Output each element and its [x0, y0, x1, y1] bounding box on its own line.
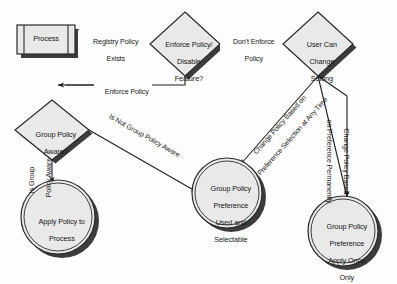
- apply-policy-line1: Apply Policy to: [38, 217, 84, 226]
- enforce-policy-line1: Enforce Policy: [105, 88, 149, 96]
- registry-policy-line2: Exists: [107, 55, 125, 63]
- enforce-decision-line1: Enforce Policy/: [165, 40, 212, 49]
- process-label: Process: [28, 35, 64, 44]
- apply-policy-label: Apply Policy to Process: [20, 209, 96, 252]
- enforce-decision-line3: Feature?: [175, 74, 203, 83]
- enforce-decision-line2: Disable: [177, 57, 201, 66]
- user-can-change-line1: User Can: [307, 40, 337, 49]
- enforce-decision-label: Enforce Policy/ Disable Feature?: [152, 32, 218, 92]
- gp-pref-once-line1: Group Policy: [327, 222, 368, 231]
- registry-policy-line1: Registry Policy: [93, 38, 138, 46]
- dont-enforce-line1: Don't Enforce: [233, 38, 274, 46]
- gp-aware-line2: Aware?: [44, 147, 68, 156]
- edge-label-is-gp-aware: Is Group Policy Aware: [20, 162, 61, 206]
- gp-pref-selectable-line2: Preference: [214, 201, 249, 210]
- gp-pref-once-line2: Preference: [330, 239, 365, 248]
- apply-policy-line2: Process: [49, 234, 75, 243]
- gp-pref-selectable-line4: Selectable: [214, 235, 247, 244]
- gp-aware-line1: Group Policy: [36, 130, 77, 139]
- edge-label-registry-policy-exists: Registry Policy Exists: [78, 30, 146, 71]
- gp-pref-selectable-line3: Used and: [216, 218, 246, 227]
- is-gp-aware-line2: Policy Aware: [45, 158, 53, 197]
- dont-enforce-line2: Policy: [245, 55, 263, 63]
- change-permanently-line2: on Preference Permanently: [325, 120, 333, 204]
- is-gp-aware-line1: Is Group: [29, 167, 37, 193]
- gp-pref-once-label: Group Policy Preference Apply Once Only: [306, 214, 380, 284]
- gp-pref-once-line4: Only: [340, 273, 355, 282]
- user-can-change-line2: Change: [309, 57, 334, 66]
- edge-label-change-policy-permanently: Change Policy Based on Preference Perman…: [316, 104, 357, 212]
- change-permanently-line1: Change Policy Based: [341, 129, 349, 195]
- gp-pref-once-line3: Apply Once: [328, 256, 365, 265]
- flowchart-canvas: Process Enforce Policy/ Disable Feature?…: [0, 0, 397, 284]
- edge-label-dont-enforce-policy: Don't Enforce Policy: [220, 30, 280, 71]
